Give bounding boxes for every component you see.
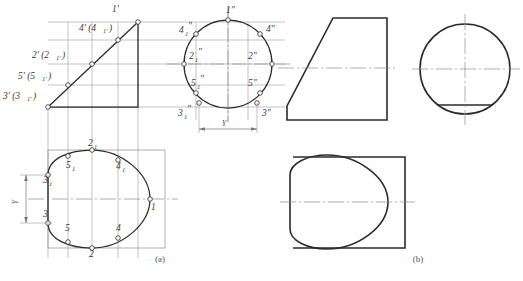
drawing-canvas: 1' 4' (4 1' ) 2' (2 1' ) 5' (5 1' ) 3' (… — [0, 0, 523, 281]
label-4-dprime: 4" — [266, 24, 276, 34]
label-2-prime: 2' (2 — [32, 50, 49, 61]
label-41-top-sub: 1 — [122, 166, 125, 173]
label-4-prime: 4' (4 — [79, 23, 96, 34]
label-31-top: 3 — [42, 175, 48, 185]
label-41-dprime-sub: 1 — [185, 30, 188, 37]
label-21-dprime: 2 — [189, 51, 194, 61]
label-2-top: 2 — [89, 249, 94, 259]
label-3-prime-close: ) — [32, 91, 36, 102]
label-21-top-sub: 1 — [94, 143, 97, 150]
engineering-drawing-figure: 1' 4' (4 1' ) 2' (2 1' ) 5' (5 1' ) 3' (… — [0, 0, 523, 281]
label-5-prime-sub: 1' — [42, 75, 47, 82]
label-41-dprime: 4 — [179, 25, 184, 35]
caption-a: (a) — [155, 254, 165, 264]
label-51-dprime: 5 — [191, 78, 196, 88]
label-2-dprime: 2" — [248, 51, 258, 61]
label-3-top: 3 — [42, 209, 48, 219]
label-21-top: 2 — [88, 138, 93, 148]
label-5-dprime: 5" — [248, 78, 258, 88]
label-5-top: 5 — [65, 223, 70, 233]
label-3-prime-sub: 1' — [27, 95, 32, 102]
label-51-dprime-sub: 1 — [197, 83, 200, 90]
label-4-top: 4 — [116, 223, 121, 233]
label-5-prime: 5' (5 — [18, 71, 35, 82]
label-1-dprime: 1" — [226, 5, 236, 15]
label-4-prime-sub: 1' — [103, 27, 108, 34]
label-5-prime-close: ) — [47, 71, 51, 82]
label-21-dprime-sub: 1 — [195, 56, 198, 63]
label-31-dprime: 3 — [177, 108, 183, 118]
label-1-top: 1 — [151, 202, 156, 212]
label-51-top: 5 — [66, 160, 71, 170]
label-31-top-sub: 1 — [49, 180, 52, 187]
label-3-dprime: 3" — [261, 108, 272, 118]
label-31-dprime-sub: 1 — [184, 113, 187, 120]
label-3-prime: 3' (3 — [2, 91, 20, 102]
caption-b: (b) — [413, 254, 424, 264]
label-1-prime: 1' — [112, 4, 120, 14]
label-41-top: 4 — [116, 161, 121, 171]
canvas-background — [0, 0, 523, 281]
label-2-prime-close: ) — [61, 50, 65, 61]
label-2-prime-sub: 1' — [56, 54, 61, 61]
label-4-prime-close: ) — [108, 23, 112, 34]
label-51-top-sub: 1 — [72, 165, 75, 172]
